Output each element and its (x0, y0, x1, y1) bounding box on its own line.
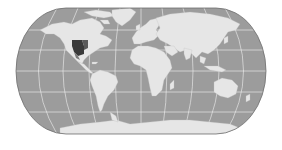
world-map (0, 0, 282, 150)
map-canvas (0, 0, 282, 150)
